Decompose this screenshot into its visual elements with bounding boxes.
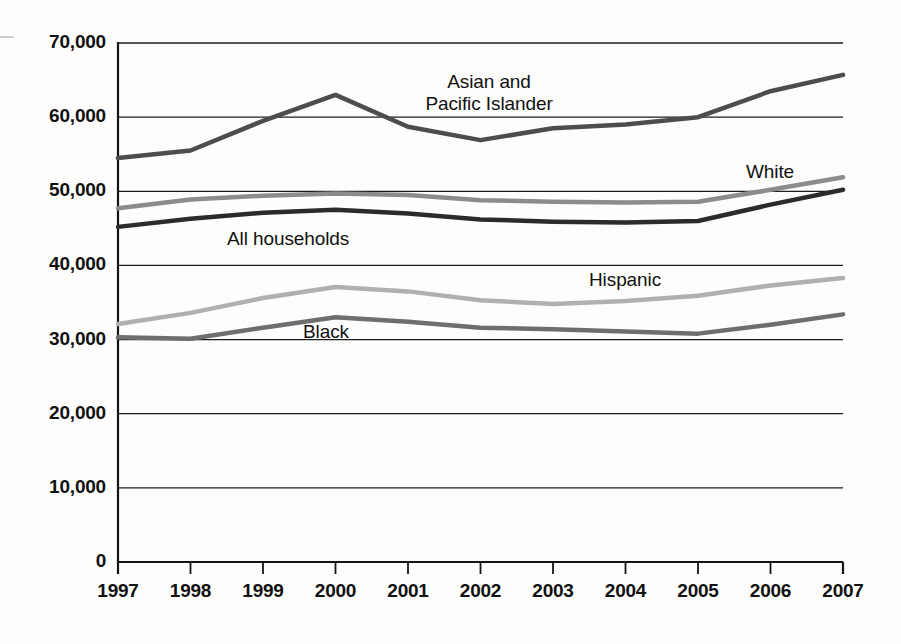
series-label-line: All households	[227, 228, 349, 250]
series-label: Asian andPacific Islander	[379, 71, 599, 115]
series-label-line: Hispanic	[589, 269, 661, 291]
x-axis-tick-label: 2003	[513, 580, 593, 602]
x-axis-tick-label: 2006	[731, 580, 811, 602]
x-axis-tick-label: 2005	[658, 580, 738, 602]
series-label-line: White	[746, 161, 794, 183]
x-axis-ticks	[191, 562, 771, 574]
series-line	[118, 314, 843, 338]
x-axis-tick-label: 2002	[441, 580, 521, 602]
y-axis-tick-label: 60,000	[0, 105, 106, 127]
chart-container: 010,00020,00030,00040,00050,00060,00070,…	[0, 0, 901, 644]
series-label-line: Black	[303, 321, 349, 343]
series-label: White	[746, 161, 794, 183]
x-axis-tick-label: 1998	[151, 580, 231, 602]
series-label: Hispanic	[589, 269, 661, 291]
series-line	[118, 278, 843, 324]
y-axis-tick-label: 40,000	[0, 253, 106, 275]
series-label: All households	[227, 228, 349, 250]
x-axis-tick-label: 1997	[78, 580, 158, 602]
x-axis-tick-label: 2007	[803, 580, 883, 602]
y-axis-tick-label: 10,000	[0, 476, 106, 498]
series-label-line: Pacific Islander	[379, 93, 599, 115]
x-axis-tick-label: 1999	[223, 580, 303, 602]
y-axis-tick-label: 70,000	[0, 31, 106, 53]
series-line	[118, 177, 843, 208]
x-axis-tick-label: 2000	[296, 580, 376, 602]
plot-frame	[118, 42, 843, 574]
y-axis-tick-label: 30,000	[0, 328, 106, 350]
y-axis-tick-label: 50,000	[0, 179, 106, 201]
y-axis-tick-label: 0	[0, 550, 106, 572]
x-axis-tick-label: 2001	[368, 580, 448, 602]
series-label-line: Asian and	[379, 71, 599, 93]
series-label: Black	[303, 321, 349, 343]
x-axis-tick-label: 2004	[586, 580, 666, 602]
y-axis-tick-label: 20,000	[0, 402, 106, 424]
